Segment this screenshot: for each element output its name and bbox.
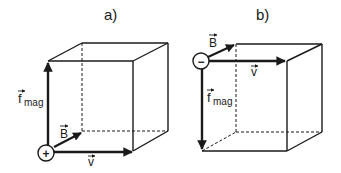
svg-text:f: f (207, 90, 211, 105)
f-mag-label-a: f mag (18, 91, 43, 108)
v-label-b: v (251, 65, 258, 79)
panel-a-label: a) (104, 6, 117, 23)
b-label-a: B (60, 126, 68, 141)
svg-text:mag: mag (24, 97, 43, 108)
svg-text:v: v (251, 65, 257, 79)
panel-a: a) + f mag (18, 6, 168, 169)
svg-text:f: f (18, 91, 22, 106)
charge-sign-b: − (197, 55, 204, 69)
magnetic-force-diagram: a) + f mag (0, 0, 341, 173)
charge-sign-a: + (42, 147, 49, 161)
svg-text:B: B (60, 127, 68, 141)
v-label-a: v (88, 155, 95, 169)
svg-text:B: B (209, 36, 217, 50)
svg-text:mag: mag (213, 96, 232, 107)
svg-text:v: v (88, 155, 94, 169)
f-mag-label-b: f mag (207, 90, 232, 107)
panel-b-label: b) (256, 6, 269, 23)
b-label-b: B (209, 35, 217, 50)
panel-b: b) − f mag B (193, 6, 322, 151)
